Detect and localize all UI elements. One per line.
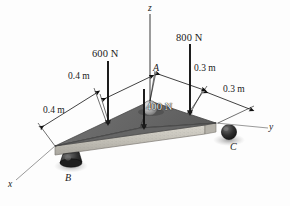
dim-label-0p4-lower: 0.4 m [43, 106, 65, 116]
dim-ext-0p3-lower-b [218, 106, 254, 123]
support-b-highlight [65, 156, 71, 161]
axis-x-line [16, 146, 55, 180]
support-c-highlight [223, 127, 228, 131]
support-c-icon [221, 124, 236, 139]
axis-label-x: x [8, 180, 12, 190]
dim-line-0p3-upper [158, 74, 204, 90]
support-b-base [60, 159, 82, 167]
dim-label-0p4-upper: 0.4 m [68, 72, 90, 82]
point-label-c: C [230, 142, 237, 152]
dim-ext-0p4-lower-a [38, 123, 55, 146]
force-label-800: 800 N [176, 33, 202, 44]
point-label-a: A [153, 63, 159, 73]
force-label-400: 400 N [146, 102, 172, 113]
force-label-600: 600 N [92, 49, 118, 60]
dim-label-0p3-upper: 0.3 m [194, 64, 216, 74]
load-point-600 [106, 121, 111, 124]
dim-line-0p3-lower [206, 92, 252, 110]
mechanics-diagram-svg [0, 0, 290, 206]
dim-label-0p3-lower: 0.3 m [223, 85, 245, 95]
point-label-b: B [65, 173, 71, 183]
load-point-400 [142, 125, 147, 128]
axis-label-y: y [269, 123, 273, 133]
dim-ext-0p3-lower-a [191, 88, 204, 112]
figure-canvas: z y x A B C 600 N 800 N 400 N 0.4 m 0.4 … [0, 0, 290, 206]
dim-ext-0p4-lower-b [94, 88, 106, 121]
axis-label-z: z [148, 4, 152, 14]
